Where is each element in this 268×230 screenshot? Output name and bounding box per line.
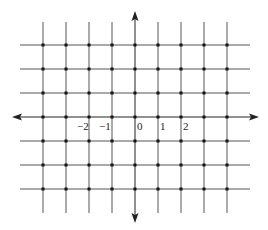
lattice-point [65,44,68,47]
coordinate-grid-diagram: −2 −1 0 1 2 [0,0,268,230]
lattice-point [88,188,91,191]
lattice-point [226,188,229,191]
lattice-point [42,68,45,71]
lattice-point [180,68,183,71]
lattice-point [180,164,183,167]
grid-graphic [0,0,268,230]
lattice-point [42,44,45,47]
lattice-point [180,92,183,95]
lattice-point [88,68,91,71]
lattice-point [157,140,160,143]
lattice-point [88,116,91,119]
tick-label-1: 1 [160,121,166,132]
lattice-point [42,188,45,191]
lattice-point [134,164,137,167]
lattice-point [111,188,114,191]
lattice-point [134,188,137,191]
lattice-point [180,188,183,191]
lattice-point [226,116,229,119]
lattice-point [226,68,229,71]
lattice-point [157,116,160,119]
lattice-point [203,92,206,95]
lattice-point [203,68,206,71]
lattice-point [226,164,229,167]
lattice-point [157,44,160,47]
lattice-point [203,116,206,119]
lattice-point [226,92,229,95]
lattice-point [42,164,45,167]
lattice-point [65,116,68,119]
lattice-point [111,92,114,95]
lattice-point [157,164,160,167]
lattice-point [180,116,183,119]
lattice-point [203,188,206,191]
lattice-point [157,92,160,95]
lattice-point [134,68,137,71]
tick-label-neg1: −1 [99,121,111,132]
lattice-point [111,44,114,47]
lattice-point [226,140,229,143]
lattice-point [88,44,91,47]
lattice-point [134,44,137,47]
lattice-point [203,44,206,47]
lattice-point [180,140,183,143]
lattice-point [88,164,91,167]
lattice-point [134,92,137,95]
lattice-point [203,140,206,143]
lattice-point [65,164,68,167]
lattice-point [88,92,91,95]
lattice-point [65,188,68,191]
lattice-point [65,140,68,143]
lattice-point [226,44,229,47]
tick-label-2: 2 [183,121,189,132]
lattice-point [42,92,45,95]
lattice-point [111,140,114,143]
tick-label-neg2: −2 [77,121,89,132]
lattice-point [203,164,206,167]
tick-label-0: 0 [137,121,143,132]
lattice-point [42,140,45,143]
lattice-point [111,68,114,71]
lattice-point [157,188,160,191]
lattice-point [180,44,183,47]
lattice-point [157,68,160,71]
lattice-point [42,116,45,119]
lattice-point [111,116,114,119]
lattice-point [134,140,137,143]
lattice-point [88,140,91,143]
lattice-point [111,164,114,167]
lattice-point [65,92,68,95]
lattice-point [134,116,137,119]
lattice-point [65,68,68,71]
